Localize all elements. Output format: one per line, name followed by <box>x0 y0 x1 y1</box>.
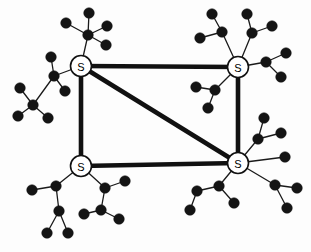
host-node <box>242 9 253 20</box>
host-node <box>191 82 202 93</box>
network-topology-diagram: SSSS <box>0 0 311 252</box>
host-node <box>13 111 24 122</box>
host-node <box>42 228 53 239</box>
host-node <box>61 18 72 29</box>
switch-label: S <box>77 161 84 173</box>
host-node <box>102 21 113 32</box>
host-node <box>261 57 272 68</box>
host-node <box>267 21 278 32</box>
host-node <box>276 72 287 83</box>
backbone-link-diagonal <box>81 66 238 163</box>
host-node <box>253 134 264 145</box>
host-node <box>210 85 221 96</box>
host-node <box>229 198 240 209</box>
host-node <box>120 176 131 187</box>
host-node <box>96 205 107 216</box>
host-node <box>101 40 112 51</box>
host-node <box>276 128 287 139</box>
host-node <box>51 181 62 192</box>
switch-top-left: S <box>71 56 92 77</box>
host-node <box>43 113 54 124</box>
backbone-link-bottom <box>81 163 238 166</box>
host-node <box>100 183 111 194</box>
switch-label: S <box>234 158 241 170</box>
host-node <box>217 27 228 38</box>
host-node <box>195 33 206 44</box>
host-node <box>214 181 225 192</box>
host-node <box>185 205 196 216</box>
host-node <box>27 185 38 196</box>
host-node <box>247 28 258 39</box>
host-node <box>192 186 203 197</box>
host-node <box>84 8 95 19</box>
host-node <box>79 209 90 220</box>
switch-label: S <box>234 62 241 74</box>
topology-canvas: SSSS <box>0 0 311 252</box>
switch-top-right: S <box>228 57 249 78</box>
host-node <box>203 103 214 114</box>
backbone-link-layer <box>81 66 238 166</box>
host-node <box>54 206 65 217</box>
host-node <box>114 214 125 225</box>
host-node <box>281 48 292 59</box>
host-node <box>60 86 71 97</box>
host-node <box>15 83 26 94</box>
host-node-layer <box>13 8 303 239</box>
host-node <box>270 180 281 191</box>
backbone-link-top <box>81 66 238 67</box>
host-node <box>49 71 60 82</box>
access-link-layer <box>18 13 297 233</box>
host-node <box>280 152 291 163</box>
switch-bottom-left: S <box>71 156 92 177</box>
host-node <box>46 52 57 63</box>
host-node <box>207 9 218 20</box>
switch-label: S <box>77 61 84 73</box>
host-node <box>259 113 270 124</box>
host-node <box>83 30 94 41</box>
switch-bottom-right: S <box>228 153 249 174</box>
host-node <box>63 228 74 239</box>
host-node <box>292 183 303 194</box>
host-node <box>282 203 293 214</box>
host-node <box>28 100 39 111</box>
